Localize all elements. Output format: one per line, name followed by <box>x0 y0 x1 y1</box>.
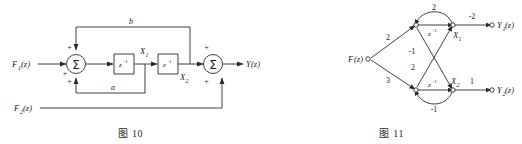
delay-1-block <box>114 54 134 74</box>
figure-11-caption: 图 11 <box>261 125 522 140</box>
summer-1-sigma: Σ <box>72 58 80 72</box>
input-label-f: F (z) <box>347 54 363 64</box>
summer-2-sigma: Σ <box>209 58 217 72</box>
svg-text:-1: -1 <box>433 28 438 33</box>
state-label-x2: X 2 <box>179 72 189 84</box>
figure-11-caption-number: 11 <box>393 128 404 139</box>
gain-label-b: b <box>129 17 133 26</box>
svg-text:-1: -1 <box>124 59 129 64</box>
svg-text:2: 2 <box>457 82 460 88</box>
branch-gain-f-to-top: 2 <box>386 33 390 42</box>
output-label-y: Y (z) <box>246 59 260 69</box>
svg-text:2: 2 <box>186 78 189 84</box>
branch-gain-cross-up: 2 <box>411 63 415 72</box>
svg-text:F: F <box>347 54 354 64</box>
state-label-x1: X 1 <box>452 30 462 42</box>
svg-text:F: F <box>11 59 18 69</box>
branch-f-to-bottom <box>371 60 413 88</box>
svg-text:1: 1 <box>459 36 462 42</box>
branch-gain-bottom-loop: -1 <box>431 105 438 114</box>
figure-10-caption: 图 10 <box>0 125 261 140</box>
figure-10: Σ Σ + + + + + F 1 (z) F 2 (z) Y <box>0 0 261 144</box>
figure-11: F (z) Y 1 (z) Y 2 (z) 2 3 2 -1 2 -1 -2 1 <box>261 0 522 144</box>
branch-f-to-top <box>371 27 413 58</box>
delay-top-label: z -1 <box>427 28 437 38</box>
node-y1 <box>490 23 494 27</box>
svg-text:z: z <box>118 61 122 69</box>
branch-top-selfloop <box>416 12 452 23</box>
input-label-f1: F 1 (z) <box>11 59 30 71</box>
branch-gain-f-to-bottom: 3 <box>386 76 390 85</box>
svg-text:1: 1 <box>146 52 149 58</box>
node-top-left <box>414 23 418 27</box>
svg-text:z: z <box>427 30 431 38</box>
branch-gain-top-selfloop: 2 <box>432 3 436 12</box>
node-x2 <box>451 88 455 92</box>
svg-text:z: z <box>427 81 431 89</box>
svg-text:(z): (z) <box>23 103 32 113</box>
figure-11-diagram: F (z) Y 1 (z) Y 2 (z) 2 3 2 -1 2 -1 -2 1 <box>261 0 522 144</box>
state-label-x1: X 1 <box>139 46 149 58</box>
figure-pair-container: Σ Σ + + + + + F 1 (z) F 2 (z) Y <box>0 0 522 144</box>
svg-text:(z): (z) <box>505 20 514 30</box>
svg-text:-1: -1 <box>433 79 438 84</box>
branch-gain-out-top: -2 <box>469 12 476 21</box>
svg-text:-1: -1 <box>168 59 173 64</box>
node-bottom-left <box>414 88 418 92</box>
svg-text:(z): (z) <box>21 59 30 69</box>
branch-gain-out-bottom: 1 <box>470 77 474 86</box>
svg-text:z: z <box>162 61 166 69</box>
summer-1-sign-top: + <box>67 43 72 52</box>
figure-10-caption-prefix: 图 <box>118 128 129 139</box>
summer-2-sign-bottom: + <box>204 77 209 86</box>
branch-gain-cross-down: -1 <box>409 47 416 56</box>
delay-2-block <box>158 54 178 74</box>
summer-1-sign-bottom: + <box>67 77 72 86</box>
figure-11-caption-prefix: 图 <box>379 128 390 139</box>
figure-10-caption-number: 10 <box>132 128 143 139</box>
output-label-y1: Y 1 (z) <box>497 20 514 32</box>
branch-bottom-loop <box>416 92 452 104</box>
figure-10-diagram: Σ Σ + + + + + F 1 (z) F 2 (z) Y <box>0 0 261 144</box>
svg-text:F: F <box>13 103 20 113</box>
node-f <box>366 57 370 61</box>
state-label-x2: X 2 <box>450 76 460 88</box>
output-label-y2: Y 2 (z) <box>497 85 514 97</box>
gain-label-a: a <box>111 83 115 92</box>
summer-2-sign-top: + <box>204 43 209 52</box>
svg-text:(z): (z) <box>354 54 363 64</box>
svg-text:(z): (z) <box>505 85 514 95</box>
input-label-f2: F 2 (z) <box>13 103 32 115</box>
svg-text:(z): (z) <box>251 59 260 69</box>
node-x1 <box>451 23 455 27</box>
delay-bottom-label: z -1 <box>427 79 437 89</box>
node-y2 <box>490 88 494 92</box>
